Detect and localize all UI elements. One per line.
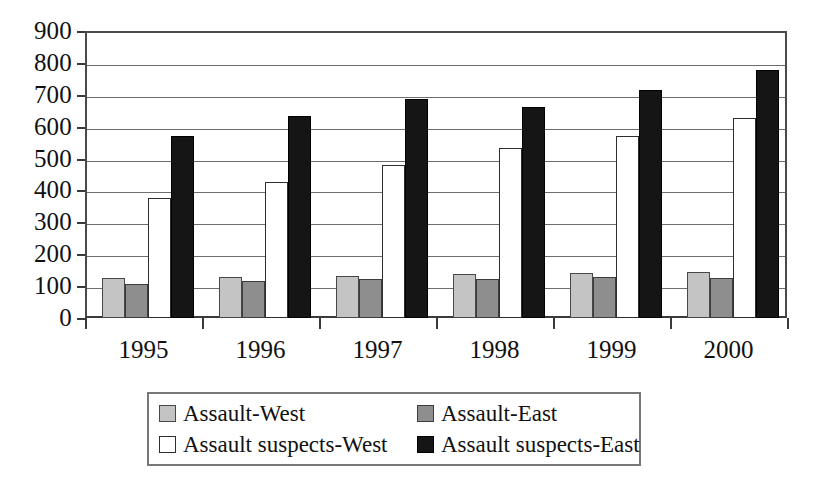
y-tick-mark [77, 159, 85, 161]
y-tick-label: 100 [0, 273, 72, 298]
y-tick-label: 700 [0, 82, 72, 107]
y-tick-label: 0 [0, 305, 72, 330]
bar [359, 279, 382, 318]
legend-label: Assault-East [441, 401, 557, 427]
legend-swatch-icon [417, 436, 434, 453]
legend-swatch-icon [417, 405, 434, 422]
legend-label: Assault suspects-East [441, 432, 640, 458]
x-tick-mark [202, 318, 204, 329]
y-tick-label: 500 [0, 146, 72, 171]
legend-item: Assault suspects-West [159, 432, 417, 458]
x-tick-label: 1995 [96, 336, 192, 364]
y-tick-label: 600 [0, 114, 72, 139]
bar [288, 116, 311, 318]
bar [593, 277, 616, 318]
legend-swatch-icon [159, 436, 176, 453]
bar [219, 277, 242, 318]
x-tick-mark [436, 318, 438, 329]
y-axis: 9008007006005004003002001000 [0, 0, 72, 492]
y-tick-label: 300 [0, 209, 72, 234]
y-tick-mark [77, 63, 85, 65]
bar [570, 273, 593, 318]
y-tick-mark [77, 254, 85, 256]
legend-item: Assault-East [417, 401, 640, 427]
bar [756, 70, 779, 318]
bar [125, 284, 148, 318]
x-tick-label: 1998 [447, 336, 543, 364]
y-tick-mark [77, 222, 85, 224]
bar [733, 118, 756, 318]
x-tick-label: 1997 [330, 336, 426, 364]
bar [336, 276, 359, 318]
y-tick-label: 200 [0, 241, 72, 266]
legend-label: Assault suspects-West [183, 432, 387, 458]
y-tick-label: 800 [0, 50, 72, 75]
y-tick-label: 400 [0, 177, 72, 202]
bar-chart: 9008007006005004003002001000 19951996199… [0, 0, 814, 492]
bar [265, 182, 288, 318]
bar [639, 90, 662, 318]
bar [616, 136, 639, 318]
bar [476, 279, 499, 318]
legend-label: Assault-West [183, 401, 305, 427]
x-tick-label: 1999 [564, 336, 660, 364]
bar [382, 165, 405, 318]
y-tick-mark [77, 190, 85, 192]
bar [453, 274, 476, 318]
bar [242, 281, 265, 318]
x-tick-label: 1996 [213, 336, 309, 364]
legend: Assault-WestAssault-EastAssault suspects… [147, 392, 641, 466]
bar [499, 148, 522, 318]
x-tick-label: 2000 [681, 336, 777, 364]
legend-item: Assault suspects-East [417, 432, 640, 458]
bars-layer [85, 31, 787, 318]
y-tick-mark [77, 286, 85, 288]
x-tick-mark [85, 318, 87, 329]
y-tick-mark [77, 95, 85, 97]
x-tick-mark [787, 318, 789, 329]
bar [710, 278, 733, 318]
x-tick-mark [553, 318, 555, 329]
legend-swatch-icon [159, 405, 176, 422]
bar [687, 272, 710, 318]
bar [171, 136, 194, 318]
legend-item: Assault-West [159, 401, 417, 427]
y-tick-mark [77, 318, 85, 320]
y-tick-mark [77, 127, 85, 129]
bar [405, 99, 428, 318]
bar [522, 107, 545, 318]
x-tick-mark [319, 318, 321, 329]
x-tick-mark [670, 318, 672, 329]
y-tick-mark [77, 31, 85, 33]
bar [148, 198, 171, 318]
bar [102, 278, 125, 318]
y-tick-label: 900 [0, 18, 72, 43]
